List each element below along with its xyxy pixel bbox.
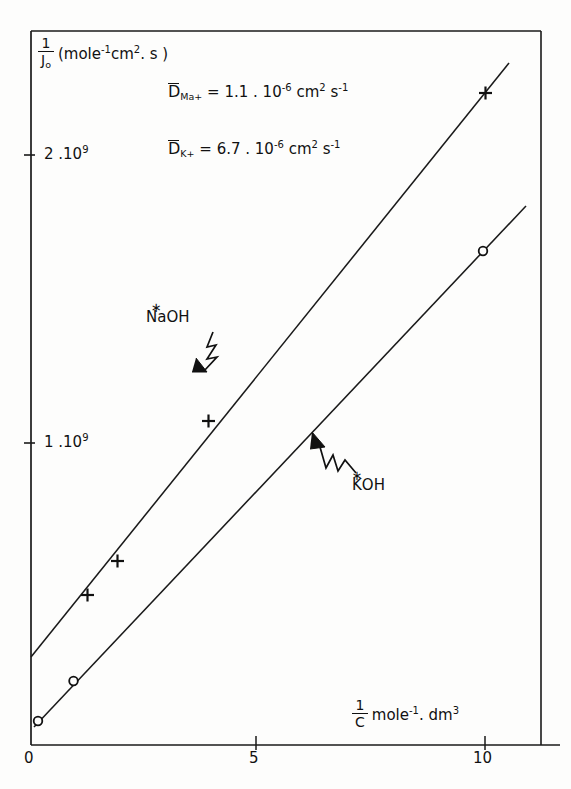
x-axis-label-numerator: 1	[352, 698, 368, 714]
koh-annotation-text: K	[352, 478, 362, 494]
series-line-koh	[34, 206, 526, 727]
y-axis-label: 1 Jo (mole-1cm2. s )	[38, 36, 168, 71]
x-tick-label-5: 5	[249, 751, 259, 767]
x-axis-label-denominator: C	[352, 714, 368, 730]
naoh-annotation-text: Na	[146, 310, 166, 326]
equation-subscript-na: Ma+	[180, 91, 202, 102]
koh-leader-arrow	[310, 432, 356, 473]
y-axis-label-fraction: 1 Jo	[38, 36, 54, 71]
x-tick-label-10: 10	[473, 751, 492, 767]
x-axis-label-units: mole-1. dm3	[372, 706, 459, 724]
y-tick-label-1e9: 1 .109	[44, 433, 89, 451]
x-tick-label-0: 0	[24, 751, 34, 767]
equation-value-na: = 1.1 . 10	[207, 83, 282, 101]
y-axis-label-denominator-sub: o	[45, 59, 51, 70]
y-axis-label-units: (mole-1cm2. s )	[58, 45, 168, 63]
koh-annotation: KOH	[352, 478, 385, 494]
equation-diffusion-k: DK+ = 6.7 . 10-6 cm2 s-1	[168, 139, 341, 159]
y-tick-label-2e9: 2 .109	[44, 145, 89, 163]
x-axis-label: 1 C mole-1. dm3	[352, 698, 459, 731]
d-bar-symbol-k: D	[168, 139, 180, 158]
equation-subscript-k: K+	[180, 148, 194, 159]
y-axis-label-denominator: Jo	[38, 52, 54, 70]
equation-diffusion-na: DMa+ = 1.1 . 10-6 cm2 s-1	[168, 82, 348, 102]
x-axis-label-fraction: 1 C	[352, 698, 368, 731]
y-axis-label-numerator: 1	[38, 36, 54, 52]
equation-value-k: = 6.7 . 10	[199, 140, 274, 158]
plot-svg	[0, 0, 571, 789]
d-bar-symbol-na: D	[168, 82, 180, 101]
naoh-leader-arrow	[192, 332, 217, 372]
figure-canvas: 1 Jo (mole-1cm2. s ) DMa+ = 1.1 . 10-6 c…	[0, 0, 571, 789]
naoh-annotation: NaOH	[146, 310, 190, 326]
series-markers-naoh	[81, 87, 492, 602]
y-axis-ticks	[24, 155, 35, 443]
x-axis-ticks	[256, 736, 485, 750]
